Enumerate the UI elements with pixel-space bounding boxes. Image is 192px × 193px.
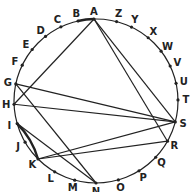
label-Y: Y bbox=[130, 14, 139, 25]
label-M: M bbox=[68, 182, 78, 192]
point-O bbox=[117, 178, 120, 181]
label-T: T bbox=[183, 94, 190, 105]
point-A bbox=[92, 17, 95, 20]
chord-K-R bbox=[38, 141, 167, 159]
point-Y bbox=[130, 25, 133, 28]
point-V bbox=[169, 64, 172, 67]
label-G: G bbox=[4, 77, 12, 88]
label-S: S bbox=[179, 118, 186, 129]
chord-K-S bbox=[38, 122, 175, 159]
chord-I-N bbox=[17, 124, 96, 183]
chord-A-R bbox=[94, 19, 167, 141]
point-I bbox=[16, 122, 19, 125]
circle-letter-diagram: AZYXWVUTSRQPONMLKJIHGFEDCB bbox=[0, 0, 192, 192]
label-O: O bbox=[116, 182, 125, 192]
label-C: C bbox=[54, 14, 61, 25]
bold-arc-B-A bbox=[78, 19, 94, 21]
label-V: V bbox=[174, 57, 182, 68]
label-Z: Z bbox=[115, 8, 122, 19]
letter-points bbox=[12, 17, 179, 184]
chord-A-H bbox=[14, 19, 94, 104]
point-T bbox=[176, 98, 179, 101]
label-E: E bbox=[23, 39, 30, 50]
point-G bbox=[14, 82, 17, 85]
bold-arc-I-K bbox=[17, 124, 38, 159]
letter-labels: AZYXWVUTSRQPONMLKJIHGFEDCB bbox=[2, 6, 190, 192]
label-H: H bbox=[2, 99, 10, 110]
point-F bbox=[21, 64, 24, 67]
label-K: K bbox=[28, 159, 37, 170]
chord-A-S bbox=[94, 19, 175, 122]
label-Q: Q bbox=[157, 157, 166, 168]
label-F: F bbox=[12, 56, 19, 67]
label-X: X bbox=[149, 26, 157, 37]
label-U: U bbox=[180, 76, 188, 87]
chord-G-S bbox=[16, 84, 175, 122]
label-W: W bbox=[162, 41, 173, 52]
point-U bbox=[174, 82, 177, 85]
label-I: I bbox=[8, 120, 12, 131]
point-M bbox=[73, 179, 76, 182]
point-Z bbox=[115, 20, 118, 23]
point-B bbox=[76, 19, 79, 22]
point-R bbox=[166, 140, 169, 143]
label-R: R bbox=[171, 140, 179, 151]
label-N: N bbox=[92, 186, 100, 193]
point-N bbox=[94, 181, 97, 184]
label-P: P bbox=[140, 172, 147, 183]
label-D: D bbox=[36, 25, 44, 36]
point-C bbox=[59, 25, 62, 28]
point-S bbox=[174, 120, 177, 123]
label-L: L bbox=[47, 173, 54, 184]
point-J bbox=[23, 141, 26, 144]
label-B: B bbox=[72, 8, 80, 19]
point-K bbox=[36, 157, 39, 160]
label-J: J bbox=[15, 141, 20, 152]
point-E bbox=[31, 48, 34, 51]
label-A: A bbox=[90, 6, 98, 17]
point-H bbox=[12, 103, 15, 106]
